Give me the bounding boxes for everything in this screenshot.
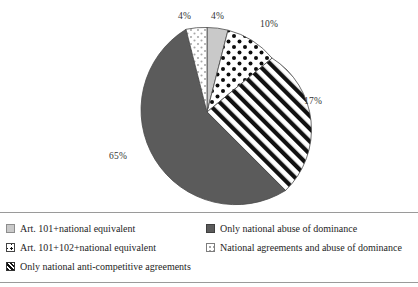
legend-swatch-fine-dots-icon <box>206 243 215 252</box>
legend-item-art101-102-national[interactable]: Art. 101+102+national equivalent <box>6 238 206 257</box>
legend-swatch-solid-dark-gray-icon <box>206 224 215 233</box>
pie-label-4-percent-right: 4% <box>211 12 224 22</box>
legend-item-only-national-abuse[interactable]: Only national abuse of dominance <box>206 219 412 238</box>
pie-chart-svg <box>0 0 418 210</box>
legend-label: Only national anti-competitive agreement… <box>20 262 191 272</box>
legend-label: Art. 101+102+national equivalent <box>20 243 156 253</box>
legend-label: Art. 101+national equivalent <box>20 224 135 234</box>
legend-item-national-agreements-abuse[interactable]: National agreements and abuse of dominan… <box>206 238 412 257</box>
pie-label-65-percent: 65% <box>109 152 127 162</box>
legend-swatch-diagonal-stripes-icon <box>6 262 15 271</box>
pie-slices <box>141 27 311 204</box>
legend-swatch-solid-light-gray-icon <box>6 224 15 233</box>
legend-grid: Art. 101+national equivalent Only nation… <box>6 219 412 276</box>
legend-item-art101-national[interactable]: Art. 101+national equivalent <box>6 219 206 238</box>
legend-label: National agreements and abuse of dominan… <box>220 243 402 253</box>
pie-label-10-percent: 10% <box>260 20 278 30</box>
legend-label: Only national abuse of dominance <box>220 224 357 234</box>
pie-chart: 4% 4% 10% 17% 65% <box>0 0 418 210</box>
legend-item-only-national-agreements[interactable]: Only national anti-competitive agreement… <box>6 257 206 276</box>
legend: Art. 101+national equivalent Only nation… <box>0 212 418 283</box>
pie-label-17-percent: 17% <box>304 97 322 107</box>
legend-swatch-bold-dots-icon <box>6 243 15 252</box>
pie-label-4-percent-left: 4% <box>178 12 191 22</box>
chart-page: 4% 4% 10% 17% 65% Art. 101+national equi… <box>0 0 418 287</box>
